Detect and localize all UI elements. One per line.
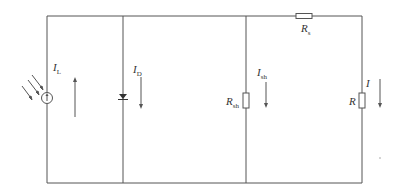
label-ID: ID — [133, 64, 142, 78]
label-R: R — [349, 96, 356, 107]
ID-arrow-icon — [139, 77, 143, 109]
shunt-resistor-icon — [243, 93, 249, 108]
circuit-diagram — [0, 0, 397, 196]
diode-icon — [118, 94, 128, 100]
I-arrow-icon — [378, 79, 382, 108]
light-rays-icon — [22, 75, 43, 100]
label-Rs: Rs — [301, 23, 310, 37]
label-Ish: Ish — [257, 67, 267, 81]
load-resistor-icon — [359, 93, 365, 108]
label-IL: IL — [53, 62, 61, 76]
series-resistor-icon — [296, 14, 312, 19]
label-I: I — [366, 78, 370, 89]
IL-arrow-icon — [73, 77, 77, 117]
label-Rsh: Rsh — [226, 96, 239, 110]
Ish-arrow-icon — [264, 82, 268, 108]
current-source-icon — [42, 93, 53, 104]
